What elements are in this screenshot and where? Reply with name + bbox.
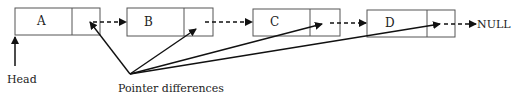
pointer-line-a — [90, 22, 130, 74]
pointer-line-d — [130, 24, 440, 74]
node-c-label: C — [270, 15, 279, 29]
linked-list-diagram: A B C D NULL Head Pointer differences — [0, 0, 513, 94]
pointer-line-c — [130, 24, 322, 74]
node-c: C — [253, 9, 340, 36]
node-a-label: A — [36, 14, 46, 28]
node-b: B — [127, 8, 213, 36]
node-b-label: B — [144, 15, 153, 29]
head-label: Head — [7, 73, 37, 86]
node-a: A — [15, 8, 100, 35]
null-label: NULL — [477, 18, 511, 31]
pointer-differences-label: Pointer differences — [118, 82, 224, 94]
node-d-label: D — [385, 16, 395, 30]
